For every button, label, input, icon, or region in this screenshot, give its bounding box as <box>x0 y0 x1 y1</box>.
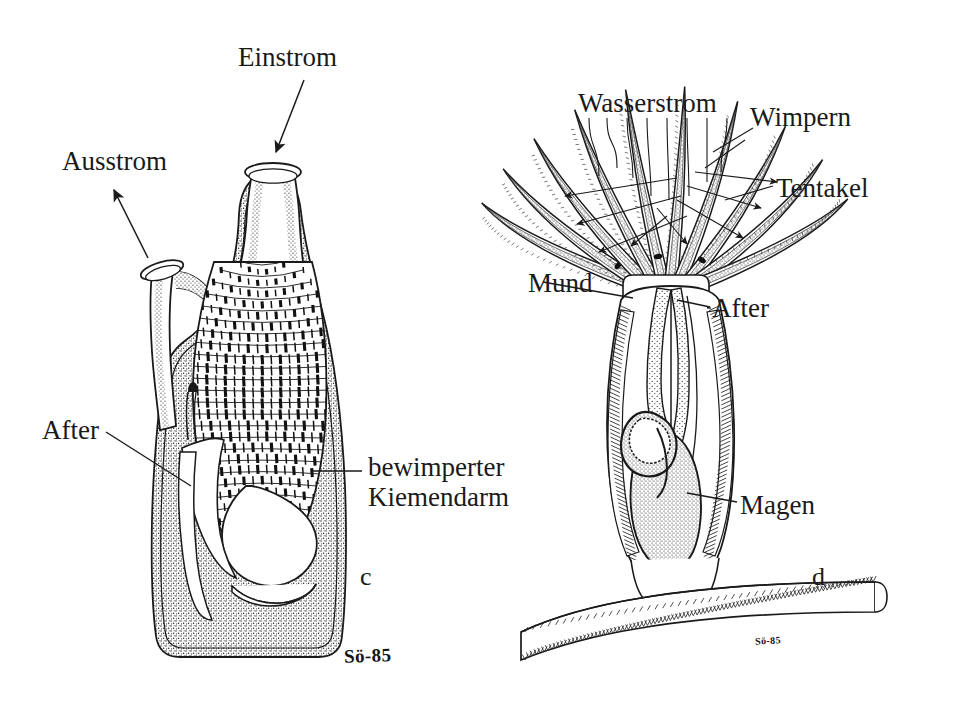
label-wimpern: Wimpern <box>750 102 851 132</box>
signature-c: Sö-85 <box>344 644 392 668</box>
label-after-c: After <box>42 415 99 445</box>
label-einstrom: Einstrom <box>238 42 337 72</box>
water-flow-leader <box>667 118 669 200</box>
water-flow-leader <box>647 118 651 196</box>
water-flow-leader <box>607 118 617 168</box>
panel-letter-d: d <box>812 562 825 592</box>
tentacle <box>683 126 786 285</box>
label-after-d: After <box>712 293 769 323</box>
label-ausstrom: Ausstrom <box>62 146 167 176</box>
label-mund: Mund <box>528 268 593 298</box>
leader-einstrom <box>276 80 304 152</box>
label-magen: Magen <box>740 490 815 520</box>
panel-letter-c: c <box>360 562 372 592</box>
water-flow-leader <box>687 118 689 196</box>
label-wasserstrom: Wasserstrom <box>578 88 717 118</box>
water-current-arrow <box>565 178 677 196</box>
calyx-body <box>607 275 734 598</box>
oral-siphon-incurrent <box>241 163 303 266</box>
leader-ausstrom <box>114 190 148 258</box>
panel-d-drawing <box>481 0 961 709</box>
panel-c-drawing <box>0 0 500 709</box>
illustration-page: Einstrom Ausstrom After bewimperter Kiem… <box>0 0 962 709</box>
label-bewimperter-kiemendarm: bewimperter Kiemendarm <box>368 452 509 512</box>
label-tentakel: Tentakel <box>776 173 869 203</box>
stolon-hair <box>873 576 876 582</box>
water-current-arrow <box>577 196 681 224</box>
signature-d: Sö-85 <box>755 634 781 646</box>
